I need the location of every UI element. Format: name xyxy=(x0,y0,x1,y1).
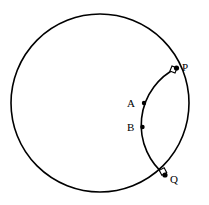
orthogonal-arc xyxy=(141,68,176,175)
point-dot-a xyxy=(142,101,146,105)
point-label-q: Q xyxy=(170,174,178,185)
point-label-b: B xyxy=(127,122,134,133)
point-label-p: P xyxy=(182,62,188,73)
point-dot-p xyxy=(174,65,179,70)
point-dot-b xyxy=(140,125,144,129)
point-label-a: A xyxy=(127,98,135,109)
main-circle xyxy=(11,14,189,192)
point-dot-q xyxy=(162,172,167,177)
geometry-figure: P Q A B xyxy=(0,0,209,205)
